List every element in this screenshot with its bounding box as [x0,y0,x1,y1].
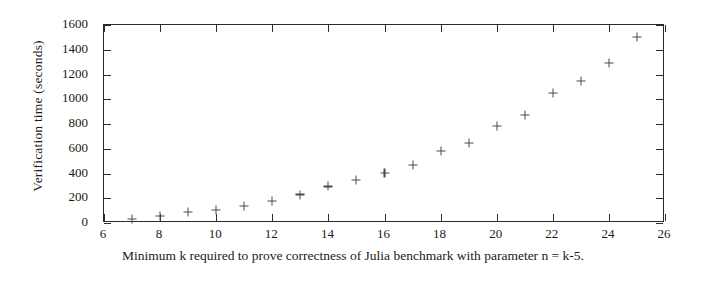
x-tick-18 [441,25,442,32]
x-tick-14 [328,214,329,221]
y-tick-0 [104,223,111,224]
x-tick-8 [160,25,161,32]
data-point [520,110,529,119]
x-tick-20 [497,25,498,32]
y-tick-label-400: 400 [69,165,89,181]
x-tick-20 [497,214,498,221]
y-tick-label-1000: 1000 [62,90,88,106]
x-tick-14 [328,25,329,32]
x-tick-10 [216,25,217,32]
data-point [268,196,277,205]
data-point [380,168,389,177]
x-tick-6 [104,25,105,32]
y-tick-label-200: 200 [69,189,89,205]
data-point [128,215,137,224]
y-tick-1400 [104,50,111,51]
y-tick-1000 [656,99,663,100]
x-tick-24 [609,25,610,32]
x-tick-6 [104,214,105,221]
x-tick-26 [665,25,666,32]
data-point [632,32,641,41]
y-tick-label-1600: 1600 [62,16,88,32]
y-tick-1200 [656,75,663,76]
x-axis-tick-labels: 68101214161820222426 [103,226,664,246]
y-tick-label-0: 0 [82,214,89,230]
data-point [548,89,557,98]
data-point [296,190,305,199]
x-tick-label-6: 6 [100,226,107,242]
y-tick-800 [104,124,111,125]
x-tick-24 [609,214,610,221]
data-point [352,175,361,184]
y-tick-1400 [656,50,663,51]
y-tick-label-800: 800 [69,115,89,131]
plot-area [103,24,664,222]
x-tick-16 [385,214,386,221]
x-tick-label-18: 18 [433,226,446,242]
y-tick-1600 [104,25,111,26]
x-tick-18 [441,214,442,221]
x-tick-label-26: 26 [658,226,671,242]
data-point [604,58,613,67]
y-axis-tick-labels: 02004006008001000120014001600 [0,24,96,222]
x-tick-12 [272,214,273,221]
x-tick-label-24: 24 [601,226,614,242]
y-tick-label-600: 600 [69,140,89,156]
x-tick-12 [272,25,273,32]
y-tick-1600 [656,25,663,26]
y-tick-600 [656,149,663,150]
x-tick-22 [553,25,554,32]
x-tick-label-20: 20 [489,226,502,242]
y-tick-600 [104,149,111,150]
y-tick-label-1200: 1200 [62,66,88,82]
figure: Verification time (seconds) 020040060080… [0,0,706,286]
x-tick-8 [160,214,161,221]
y-tick-200 [656,198,663,199]
data-point [184,207,193,216]
data-point [408,160,417,169]
x-tick-label-12: 12 [265,226,278,242]
y-tick-1200 [104,75,111,76]
x-tick-label-14: 14 [321,226,334,242]
data-point [464,139,473,148]
x-tick-16 [385,25,386,32]
x-tick-label-22: 22 [545,226,558,242]
figure-caption: Minimum k required to prove correctness … [0,248,706,264]
y-tick-400 [656,174,663,175]
data-point [324,182,333,191]
x-tick-label-8: 8 [156,226,163,242]
data-point [436,147,445,156]
data-point [240,201,249,210]
x-tick-10 [216,214,217,221]
x-tick-22 [553,214,554,221]
y-tick-400 [104,174,111,175]
y-tick-0 [656,223,663,224]
data-point [492,121,501,130]
y-tick-200 [104,198,111,199]
data-point [576,76,585,85]
y-tick-1000 [104,99,111,100]
x-tick-label-16: 16 [377,226,390,242]
x-tick-label-10: 10 [209,226,222,242]
y-tick-800 [656,124,663,125]
y-tick-label-1400: 1400 [62,41,88,57]
x-tick-26 [665,214,666,221]
